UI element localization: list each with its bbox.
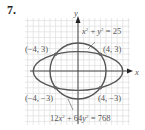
- circle-equation-label: x2 + y2 = 25: [81, 26, 121, 36]
- graph: x y x2 + y2 = 25 (−4, 3) (4, 3) (−4, −3)…: [0, 0, 145, 130]
- point-4-neg3: [99, 86, 103, 90]
- point-neg4-3: [54, 52, 58, 56]
- y-axis-label: y: [73, 8, 78, 18]
- ellipse-equation-label: 12x2 + 64y2 = 768: [50, 113, 110, 123]
- label-4-3: (4, 3): [103, 44, 122, 54]
- x-axis-label: x: [134, 67, 139, 77]
- point-4-3: [99, 52, 103, 56]
- label-neg4-neg3: (−4, −3): [25, 93, 53, 103]
- label-neg4-3: (−4, 3): [25, 44, 48, 54]
- label-4-neg3: (4, −3): [98, 93, 121, 103]
- point-neg4-neg3: [54, 86, 58, 90]
- x-axis-arrow-icon: [127, 69, 133, 74]
